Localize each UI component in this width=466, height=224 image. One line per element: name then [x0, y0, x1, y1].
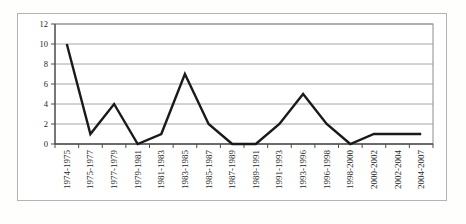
- x-axis-label: 1987-1989: [227, 150, 237, 189]
- x-axis-label: 1974-1975: [62, 150, 72, 189]
- x-axis-label: 1991-1993: [274, 150, 284, 189]
- x-axis-label: 1975-1977: [85, 150, 95, 189]
- x-axis-label: 1977-1979: [109, 150, 119, 189]
- x-axis-label: 1981-1983: [156, 150, 166, 189]
- x-axis-label: 1979-1981: [133, 150, 143, 189]
- y-axis-label: 8: [44, 59, 48, 69]
- y-axis-label: 10: [40, 39, 49, 49]
- data-series-line: [67, 44, 421, 144]
- x-axis-label: 1998-2000: [345, 150, 355, 189]
- line-chart: 0246810121974-19751975-19771977-19791979…: [18, 14, 446, 200]
- x-axis-label: 2000-2002: [369, 150, 379, 189]
- y-axis-label: 2: [44, 119, 48, 129]
- x-axis-label: 2002-2004: [393, 150, 403, 189]
- x-axis-label: 1985-1987: [204, 150, 214, 189]
- chart-frame: 0246810121974-19751975-19771977-19791979…: [17, 13, 447, 201]
- y-axis-label: 6: [44, 79, 48, 89]
- scanned-page: 0246810121974-19751975-19771977-19791979…: [0, 0, 466, 224]
- x-axis-label: 1983-1985: [180, 150, 190, 189]
- x-axis-label: 1993-1996: [298, 150, 308, 189]
- x-axis-label: 1989-1991: [251, 150, 261, 189]
- y-axis-label: 4: [44, 99, 49, 109]
- x-axis-label: 2004-2007: [416, 150, 426, 189]
- y-axis-label: 12: [40, 19, 49, 29]
- x-axis-label: 1996-1998: [322, 150, 332, 189]
- y-axis-label: 0: [44, 139, 48, 149]
